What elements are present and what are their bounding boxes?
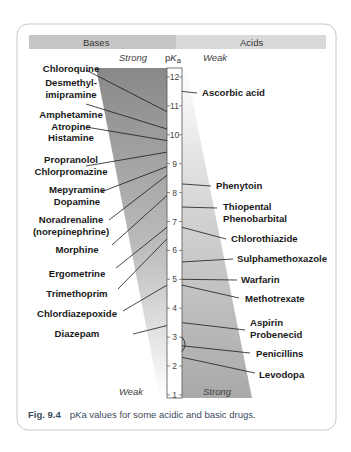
acid-drug-label: Penicillins bbox=[256, 348, 303, 359]
base-drug-label: Chloroquine bbox=[43, 63, 100, 74]
base-drug-label: Morphine bbox=[55, 244, 98, 255]
tick-label: 5 bbox=[172, 274, 177, 284]
acid-drug-label: Sulphamethoxazole bbox=[237, 253, 327, 264]
acid-drug-label: Ascorbic acid bbox=[202, 87, 265, 98]
base-drug-label: Chlordiazepoxide bbox=[37, 308, 117, 319]
base-drug-label: Trimethoprim bbox=[46, 288, 107, 299]
pka-scale bbox=[167, 68, 182, 398]
base-drug-label: Noradrenaline(norepinephrine) bbox=[33, 214, 109, 237]
acid-drug-label: Warfarin bbox=[241, 274, 280, 285]
base-drug-label: Diazepam bbox=[55, 328, 100, 339]
tick-label: 3 bbox=[172, 332, 177, 342]
figure-card: Bases Acids Strong pKa Weak 121110987654… bbox=[0, 0, 351, 452]
tick-label: 2 bbox=[172, 361, 177, 371]
base-drug-label: Ergometrine bbox=[49, 268, 106, 279]
tick-label: 1 bbox=[172, 390, 177, 400]
bases-strong-label: Strong bbox=[119, 52, 148, 63]
tick-label: 6 bbox=[172, 245, 177, 255]
tick-label: 11 bbox=[170, 101, 179, 111]
bases-weak-label: Weak bbox=[119, 386, 144, 397]
pka-diagram: Bases Acids Strong pKa Weak 121110987654… bbox=[0, 0, 351, 452]
tick-label: 4 bbox=[172, 303, 177, 313]
tick-label: 10 bbox=[170, 130, 180, 140]
acid-drug-label: Phenytoin bbox=[216, 180, 263, 191]
tick-label: 7 bbox=[172, 217, 177, 227]
acid-drug-label: Methotrexate bbox=[245, 293, 305, 304]
base-drug-label: PropranololChlorpromazine bbox=[34, 154, 107, 177]
acids-header-label: Acids bbox=[240, 37, 263, 48]
acids-weak-label: Weak bbox=[203, 52, 228, 63]
base-drug-label: MepyramineDopamine bbox=[49, 184, 105, 207]
tick-label: 8 bbox=[172, 188, 177, 198]
acid-drug-label: Chlorothiazide bbox=[231, 233, 298, 244]
acid-drug-label: Levodopa bbox=[259, 369, 305, 380]
tick-label: 12 bbox=[170, 72, 180, 82]
base-drug-label: Desmethyl-imipramine bbox=[45, 77, 97, 100]
acids-strong-label: Strong bbox=[203, 386, 232, 397]
bases-header-label: Bases bbox=[83, 37, 110, 48]
tick-label: 9 bbox=[172, 159, 177, 169]
